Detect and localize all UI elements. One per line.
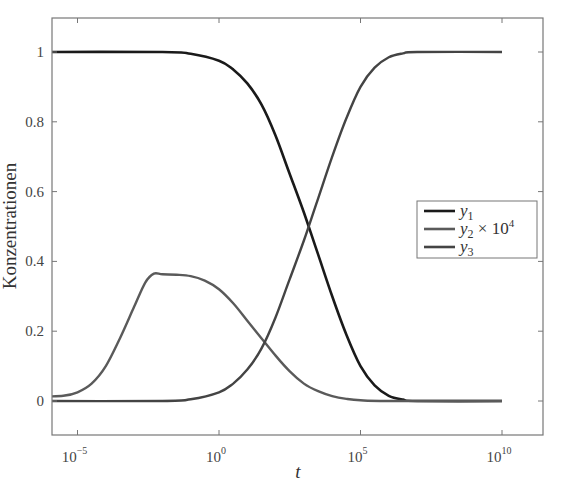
y-tick-label: 0.4 [25,253,44,269]
x-tick-label: 100 [206,445,226,465]
x-tick-label: 10−5 [62,445,88,465]
legend: y1y2 × 104y3 [417,201,537,259]
x-tick-label: 105 [348,445,368,465]
y-axis-title: Konzentrationen [0,162,20,289]
y-tick-label: 0.6 [25,184,44,200]
y-tick-label: 0.2 [25,323,44,339]
y-tick-label: 0 [37,393,45,409]
x-tick-labels: 10−51001051010 [62,445,512,465]
series-line-y2-10-4 [35,273,502,401]
x-axis-title: t [295,461,301,482]
y-tick-label: 1 [37,44,45,60]
x-tick-label: 1010 [487,445,512,465]
y-tick-label: 0.8 [25,114,44,130]
chart: 10−51001051010 00.20.40.60.81 t Konzentr… [0,0,567,488]
y-tick-labels: 00.20.40.60.81 [25,44,44,409]
